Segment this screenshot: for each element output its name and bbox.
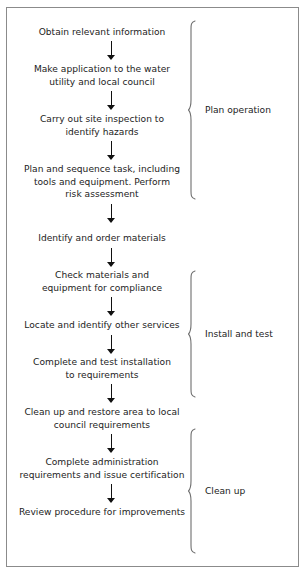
flowchart-step-2: Make application to the water utility an… <box>10 63 194 88</box>
phase-brace-install-and-test <box>188 270 200 398</box>
flowchart-step-6: Check materials and equipment for compli… <box>10 269 194 294</box>
flowchart-step-1: Obtain relevant information <box>10 26 194 39</box>
flow-arrow-1 <box>105 41 118 61</box>
flowchart-step-column: Obtain relevant information Make applica… <box>10 7 194 567</box>
phase-brace-plan-operation <box>188 20 200 200</box>
phase-brace-clean-up <box>188 428 200 554</box>
flow-arrow-7 <box>105 335 118 355</box>
flow-arrow-10 <box>105 484 118 504</box>
flowchart-step-5: Identify and order materials <box>10 232 194 245</box>
flowchart-step-11: Review procedure for improvements <box>10 506 194 519</box>
flowchart-step-7: Locate and identify other services <box>10 319 194 332</box>
flow-arrow-4 <box>105 204 118 224</box>
flow-arrow-3 <box>105 141 118 161</box>
phase-label-clean-up: Clean up <box>205 485 245 497</box>
flowchart-step-8: Complete and test installation to requir… <box>10 356 194 381</box>
flowchart-step-10: Complete administration requirements and… <box>10 456 194 481</box>
flow-arrow-8 <box>105 384 118 404</box>
flowchart-step-3: Carry out site inspection to identify ha… <box>10 113 194 138</box>
phase-label-install-and-test: Install and test <box>205 328 273 340</box>
phase-label-plan-operation: Plan operation <box>205 104 271 116</box>
flowchart-diagram: Obtain relevant information Make applica… <box>0 0 306 574</box>
flow-arrow-2 <box>105 91 118 111</box>
flow-arrow-5 <box>105 248 118 268</box>
flow-arrow-9 <box>105 434 118 454</box>
flow-arrow-6 <box>105 297 118 317</box>
flowchart-step-9: Clean up and restore area to local counc… <box>10 406 194 431</box>
flowchart-step-4: Plan and sequence task, including tools … <box>10 163 194 201</box>
